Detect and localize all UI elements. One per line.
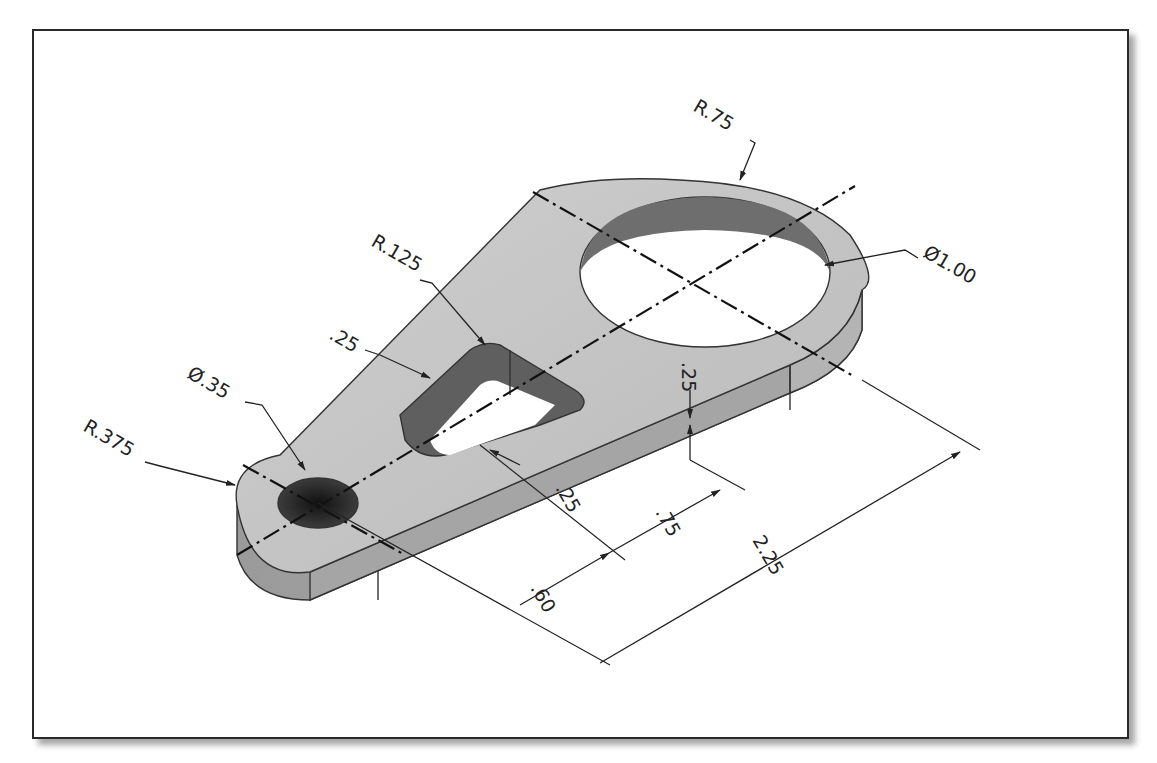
label-r-small: R.375 — [80, 414, 138, 460]
label-slot-wall-top: .25 — [326, 322, 363, 356]
label-slot-length: .75 — [652, 503, 686, 540]
label-dia-large: Ø1.00 — [920, 240, 981, 288]
label-center-distance: 2.25 — [749, 531, 789, 579]
label-dia-small: Ø.35 — [184, 361, 234, 403]
label-r-slot: R.125 — [368, 229, 426, 275]
isometric-part-drawing: R.75 Ø1.00 R.125 .25 Ø.35 R.375 .25 .25 … — [0, 0, 1157, 763]
label-thickness: .25 — [678, 362, 700, 392]
label-r-large: R.75 — [690, 94, 738, 134]
